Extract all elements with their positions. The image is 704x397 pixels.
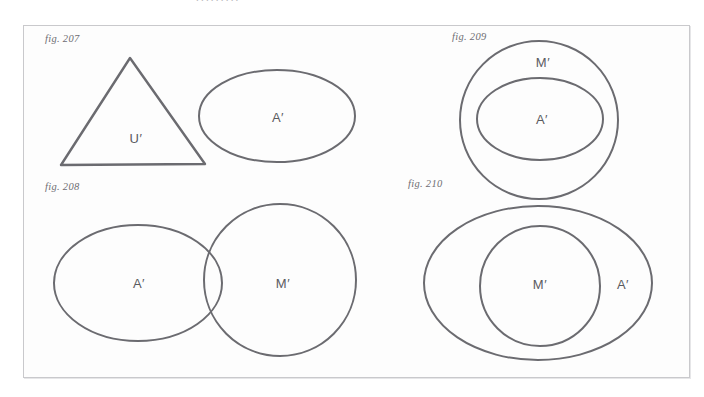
fig210-label-m-prime: M′ [533, 277, 547, 292]
fig-caption-207: fig. 207 [45, 33, 79, 44]
fig208-label-m-prime: M′ [276, 276, 290, 291]
figure-frame-border [23, 25, 690, 378]
fig209-label-m-prime: M′ [536, 55, 550, 70]
scan-artifact-top: ......... [0, 0, 704, 8]
fig209-label-a-prime: A′ [536, 112, 548, 127]
fig-caption-209: fig. 209 [452, 31, 486, 42]
fig-caption-210: fig. 210 [408, 178, 442, 189]
scan-artifact-text: ......... [196, 0, 241, 3]
fig207-label-a-prime: A′ [272, 110, 284, 125]
fig210-label-a-prime: A′ [617, 277, 629, 292]
fig-caption-208: fig. 208 [45, 181, 79, 192]
fig208-label-a-prime: A′ [133, 276, 145, 291]
fig207-label-u-prime: U′ [130, 131, 143, 146]
